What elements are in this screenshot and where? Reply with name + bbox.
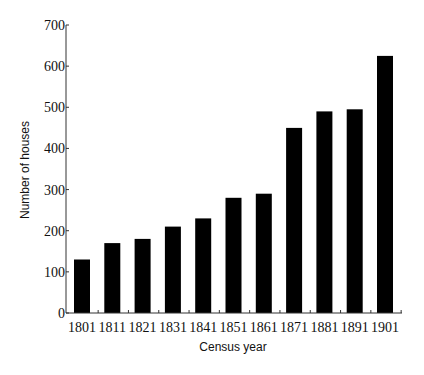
bar-chart: 0100200300400500600700 18011811182118311… bbox=[0, 0, 424, 375]
x-tick-label: 1871 bbox=[280, 320, 308, 335]
bar-1851 bbox=[226, 198, 242, 313]
x-tick-label: 1811 bbox=[99, 320, 126, 335]
y-axis: 0100200300400500600700 bbox=[44, 18, 69, 321]
bar-1831 bbox=[165, 227, 181, 313]
y-tick-label: 600 bbox=[44, 59, 65, 74]
y-tick-label: 400 bbox=[44, 141, 65, 156]
x-tick-label: 1821 bbox=[129, 320, 157, 335]
bar-1871 bbox=[286, 128, 302, 313]
x-tick-label: 1851 bbox=[220, 320, 248, 335]
bar-1891 bbox=[347, 109, 363, 313]
x-tick-label: 1901 bbox=[371, 320, 399, 335]
bar-1841 bbox=[195, 218, 211, 313]
x-tick-label: 1891 bbox=[341, 320, 369, 335]
bars-group bbox=[74, 56, 393, 313]
x-axis-title: Census year bbox=[199, 340, 266, 354]
y-tick-label: 200 bbox=[44, 224, 65, 239]
x-tick-label: 1801 bbox=[68, 320, 96, 335]
bar-1821 bbox=[135, 239, 151, 313]
x-tick-label: 1841 bbox=[189, 320, 217, 335]
bar-1811 bbox=[104, 243, 120, 313]
bar-1801 bbox=[74, 260, 90, 314]
bar-1861 bbox=[256, 194, 272, 313]
bar-1881 bbox=[316, 111, 332, 313]
y-tick-label: 300 bbox=[44, 183, 65, 198]
x-tick-label: 1831 bbox=[159, 320, 187, 335]
y-tick-label: 700 bbox=[44, 18, 65, 33]
bar-1901 bbox=[377, 56, 393, 313]
x-axis: 1801181118211831184118511861187118811891… bbox=[66, 310, 402, 335]
x-tick-label: 1861 bbox=[250, 320, 278, 335]
x-tick-label: 1881 bbox=[310, 320, 338, 335]
y-tick-label: 100 bbox=[44, 265, 65, 280]
y-axis-title: Number of houses bbox=[18, 121, 32, 219]
y-tick-label: 0 bbox=[58, 306, 65, 321]
y-tick-label: 500 bbox=[44, 100, 65, 115]
